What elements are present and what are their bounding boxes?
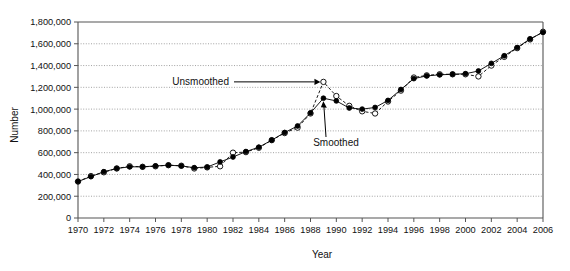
x-tick-label: 1972 xyxy=(94,225,114,235)
data-point-smoothed xyxy=(373,105,378,110)
data-point-smoothed xyxy=(114,166,119,171)
x-tick-label: 1980 xyxy=(197,225,217,235)
data-point-smoothed xyxy=(244,149,249,154)
y-tick-label: 0 xyxy=(66,213,71,223)
data-point-smoothed xyxy=(515,45,520,50)
data-point-smoothed xyxy=(321,96,326,101)
data-point-unsmoothed xyxy=(476,74,481,79)
x-tick-label: 1986 xyxy=(274,225,294,235)
series-smoothed xyxy=(76,30,546,184)
data-point-smoothed xyxy=(489,61,494,66)
data-point-smoothed xyxy=(334,99,339,104)
x-tick-label: 1974 xyxy=(119,225,139,235)
data-point-smoothed xyxy=(166,163,171,168)
y-axis-title: Number xyxy=(9,107,20,143)
x-tick-label: 1994 xyxy=(378,225,398,235)
x-tick-label: 1990 xyxy=(326,225,346,235)
data-point-smoothed xyxy=(153,164,158,169)
data-point-smoothed xyxy=(282,130,287,135)
data-point-unsmoothed xyxy=(321,79,326,84)
data-point-smoothed xyxy=(308,111,313,116)
y-tick-label: 1,400,000 xyxy=(30,61,71,71)
x-tick-label: 1996 xyxy=(404,225,424,235)
data-point-smoothed xyxy=(269,138,274,143)
data-point-unsmoothed xyxy=(334,93,339,98)
y-axis-tick-labels: 0200,000400,000600,000800,0001,000,0001,… xyxy=(30,17,71,223)
data-point-smoothed xyxy=(140,164,145,169)
y-tick-label: 200,000 xyxy=(38,192,71,202)
y-axis-ticks xyxy=(74,22,78,218)
y-tick-label: 1,600,000 xyxy=(30,39,71,49)
x-tick-label: 1970 xyxy=(68,225,88,235)
series-line-unsmoothed xyxy=(78,32,543,182)
x-tick-label: 2000 xyxy=(455,225,475,235)
series-line-smoothed xyxy=(78,32,543,181)
x-axis-tick-labels: 1970197219741976197819801982198419861988… xyxy=(68,225,553,235)
x-tick-label: 2002 xyxy=(481,225,501,235)
data-point-smoothed xyxy=(89,174,94,179)
data-point-smoothed xyxy=(424,74,429,79)
x-axis-ticks xyxy=(78,218,543,222)
data-point-smoothed xyxy=(502,53,507,58)
x-tick-label: 1976 xyxy=(145,225,165,235)
x-tick-label: 1984 xyxy=(249,225,269,235)
number-by-year-line-chart: 0200,000400,000600,000800,0001,000,0001,… xyxy=(0,0,570,271)
data-point-smoothed xyxy=(256,145,261,150)
gridlines-group xyxy=(78,44,543,196)
series-unsmoothed xyxy=(75,29,545,184)
data-point-smoothed xyxy=(411,76,416,81)
data-point-unsmoothed xyxy=(372,111,377,116)
x-tick-label: 1978 xyxy=(171,225,191,235)
annotation-arrowhead-smoothed xyxy=(321,101,327,108)
data-point-smoothed xyxy=(541,30,546,35)
x-tick-label: 1982 xyxy=(223,225,243,235)
y-tick-label: 800,000 xyxy=(38,126,71,136)
data-point-smoothed xyxy=(437,72,442,77)
data-point-smoothed xyxy=(101,169,106,174)
annotation-arrowhead-unsmoothed xyxy=(314,79,320,85)
x-tick-label: 1992 xyxy=(352,225,372,235)
annotation-arrow-smoothed xyxy=(324,106,326,137)
data-point-smoothed xyxy=(231,155,236,160)
y-tick-label: 1,800,000 xyxy=(30,17,71,27)
data-point-smoothed xyxy=(399,87,404,92)
data-point-smoothed xyxy=(476,69,481,74)
data-point-smoothed xyxy=(360,107,365,112)
data-point-smoothed xyxy=(205,165,210,170)
chart-figure: 0200,000400,000600,000800,0001,000,0001,… xyxy=(0,0,570,271)
data-point-smoothed xyxy=(386,98,391,103)
data-point-smoothed xyxy=(179,164,184,169)
x-axis-title: Year xyxy=(312,249,333,260)
y-tick-label: 400,000 xyxy=(38,170,71,180)
data-point-smoothed xyxy=(347,106,352,111)
plot-frame xyxy=(78,22,543,218)
y-tick-label: 1,200,000 xyxy=(30,83,71,93)
annotation-label-unsmoothed: Unsmoothed xyxy=(172,76,229,87)
y-tick-label: 1,000,000 xyxy=(30,105,71,115)
x-tick-label: 2006 xyxy=(533,225,553,235)
x-tick-label: 2004 xyxy=(507,225,527,235)
data-point-smoothed xyxy=(192,165,197,170)
x-tick-label: 1988 xyxy=(300,225,320,235)
data-point-smoothed xyxy=(76,179,81,184)
x-tick-label: 1998 xyxy=(429,225,449,235)
annotation-label-smoothed: Smoothed xyxy=(313,137,359,148)
data-point-smoothed xyxy=(218,160,223,165)
y-tick-label: 600,000 xyxy=(38,148,71,158)
data-point-smoothed xyxy=(450,72,455,77)
data-point-smoothed xyxy=(463,71,468,76)
data-point-smoothed xyxy=(127,164,132,169)
data-point-smoothed xyxy=(528,36,533,41)
data-point-smoothed xyxy=(295,124,300,129)
